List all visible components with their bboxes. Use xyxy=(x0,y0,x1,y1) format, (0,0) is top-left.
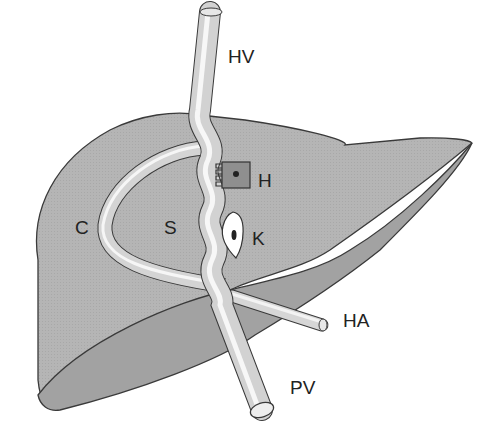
label-central-vein: C xyxy=(75,217,89,239)
hepatic-vein-opening xyxy=(200,8,222,16)
label-sinusoid: S xyxy=(164,217,177,239)
liver-diagram: HV H C S K HA PV xyxy=(0,0,500,440)
label-portal-vein: PV xyxy=(290,377,315,399)
label-hepatic-artery: HA xyxy=(343,310,369,332)
label-hepatic-vein: HV xyxy=(228,46,254,68)
label-kupffer-cell: K xyxy=(252,228,265,250)
label-hepatocyte: H xyxy=(258,170,272,192)
